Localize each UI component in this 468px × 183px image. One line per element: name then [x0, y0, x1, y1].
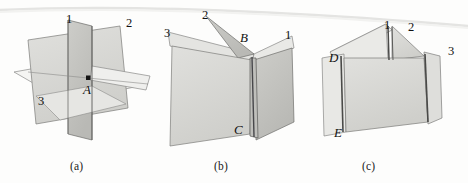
panel-b	[168, 16, 294, 146]
label-a-point-A: A	[83, 82, 91, 98]
panel-a	[14, 20, 150, 140]
caption-b: (b)	[214, 160, 228, 172]
label-c-point-D: D	[329, 50, 338, 66]
point-marker-A	[86, 76, 91, 81]
plane-c-front-panel	[344, 58, 428, 132]
label-c-plane-3: 3	[448, 44, 454, 59]
label-b-plane-1: 1	[285, 28, 291, 43]
caption-a: (a)	[70, 160, 83, 172]
label-b-plane-2: 2	[202, 8, 208, 23]
panel-c	[322, 24, 442, 136]
label-a-plane-1: 1	[66, 12, 72, 27]
label-b-plane-3: 3	[164, 26, 170, 41]
label-b-point-B: B	[240, 30, 248, 46]
geometry-figure: 1 2 3 A 2 3 1 B C 1 2 3 D E (a) (b) (c)	[0, 0, 468, 183]
plane-b-right-panel	[254, 48, 294, 140]
label-b-point-C: C	[234, 122, 243, 138]
label-c-point-E: E	[334, 125, 342, 141]
figure-canvas	[0, 0, 468, 183]
label-a-plane-3: 3	[38, 94, 44, 109]
label-c-plane-1: 1	[384, 18, 390, 33]
caption-c: (c)	[362, 160, 375, 172]
label-c-plane-2: 2	[408, 20, 414, 35]
label-a-plane-2: 2	[126, 16, 132, 31]
